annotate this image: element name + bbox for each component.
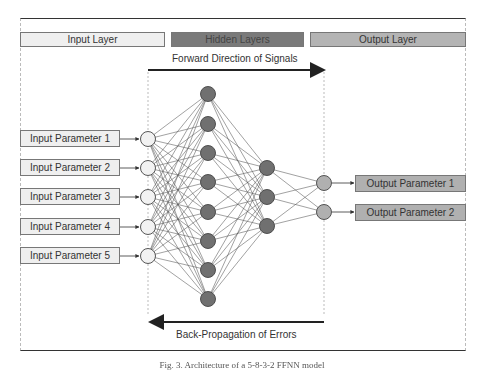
hidden1-node-8 bbox=[201, 292, 216, 307]
input-node-4 bbox=[141, 220, 156, 235]
hidden2-node-1 bbox=[260, 161, 275, 176]
input-node-1 bbox=[141, 132, 156, 147]
input-node-5 bbox=[141, 249, 156, 264]
hidden1-node-7 bbox=[201, 263, 216, 278]
neural-network-graph bbox=[0, 0, 484, 370]
output-node-2 bbox=[317, 205, 332, 220]
hidden2-node-2 bbox=[260, 190, 275, 205]
input-node-3 bbox=[141, 190, 156, 205]
output-node-1 bbox=[317, 176, 332, 191]
hidden1-node-2 bbox=[201, 117, 216, 132]
network-nodes bbox=[141, 87, 332, 307]
figure-caption: Fig. 3. Architecture of a 5-8-3-2 FFNN m… bbox=[0, 360, 484, 370]
input-node-2 bbox=[141, 161, 156, 176]
hidden1-node-5 bbox=[201, 205, 216, 220]
hidden2-node-3 bbox=[260, 219, 275, 234]
network-edges bbox=[148, 94, 324, 299]
hidden1-node-4 bbox=[201, 175, 216, 190]
hidden1-node-1 bbox=[201, 87, 216, 102]
hidden1-node-3 bbox=[201, 146, 216, 161]
hidden1-node-6 bbox=[201, 234, 216, 249]
